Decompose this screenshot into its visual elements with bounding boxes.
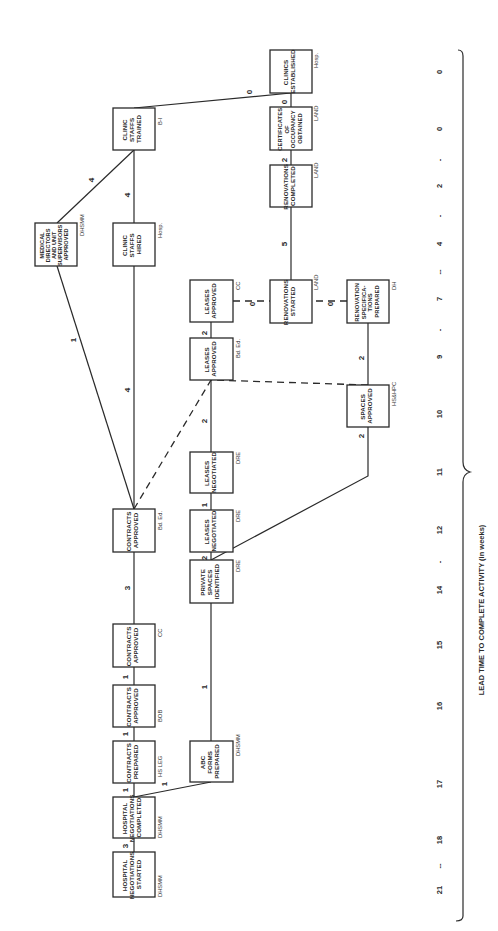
svg-text:CLINIC STAFFS HIRE: CLINIC STAFFS HIRED (121, 231, 142, 257)
agency-label: DHSMM (157, 816, 163, 838)
node-leases-negotiated-1: LEASES NEGOTIATED DRE (190, 510, 241, 552)
node-label-line: HOSPITAL (121, 802, 128, 834)
agency-label: CC (235, 282, 241, 290)
duration-n6-n8: 4 (123, 387, 132, 392)
node-hospital-negotiations-completed: HOSPITAL NEGOTIATIONS COMPLETED DHSMM (113, 793, 163, 843)
axis-tick: 2 (435, 184, 444, 188)
dummy-edges (134, 301, 368, 509)
node-certificates-of-occupancy-obtained: CERTIFICATES OF OCCUPANCY OBTAINED LAND (270, 106, 319, 151)
duration-n5-n6: 3 (123, 585, 132, 590)
axis-tick: 17 (435, 780, 444, 788)
agency-label: DHSMM (235, 734, 241, 756)
duration-n1-n2: 3 (121, 843, 130, 848)
duration-n3-n4: 1 (121, 731, 130, 736)
svg-text:LEASES APPROVED: LEASES APPROVED (203, 341, 217, 377)
node-label-line: CLINIC (121, 234, 128, 256)
edge-n9-n19 (134, 93, 291, 108)
svg-text:CONTRACTS APPROVED: CONTRACTS APPROVED (125, 510, 139, 552)
node-private-spaces-identified: PRIVATE SPACES IDENTIFIED DRE (190, 560, 241, 603)
node-label-line: COMPLETED (135, 797, 142, 837)
duration-n17-n18: 2 (280, 157, 289, 162)
axis-tick: 12 (435, 526, 444, 534)
axis-tick: 16 (435, 702, 444, 710)
node-label-line: FORMS (206, 751, 213, 774)
node-label-line: SPACES (359, 394, 366, 420)
node-label-line: CLINIC (121, 119, 128, 141)
node-label-line: TRAINED (135, 114, 142, 143)
agency-label: HS LEG (157, 755, 163, 777)
lead-time-axis: 21 -- 18 17 16 15 14 - 12 11 10 9 - 7 --… (435, 50, 486, 921)
axis-tick: 14 (435, 585, 444, 594)
duration-n16-n17: 5 (280, 241, 289, 246)
node-label-line: SPACES (206, 570, 213, 596)
node-renovations-started: RENOVATIONS STARTED LAND (270, 275, 319, 326)
node-label-line: PREPARED (213, 744, 220, 779)
duration-n8-n9: 4 (123, 192, 132, 197)
node-label-line: CONTRACTS (125, 743, 132, 783)
svg-text:SPACES APPROVED: SPACES APPROVED (359, 388, 373, 424)
node-label-line: OCCUPANCY (290, 110, 296, 148)
axis-brace (456, 50, 470, 921)
node-clinic-staffs-trained: CLINIC STAFFS TRAINED B-I (113, 108, 163, 150)
node-label-line: PRIVATE (199, 569, 206, 596)
node-label-line: CONTRACTS (125, 627, 132, 667)
agency-label: Bd. Ed. (157, 511, 163, 530)
node-label-line: CERTIFICATES (277, 108, 283, 151)
agency-label: DRE (235, 510, 241, 522)
duration-n4-n5: 1 (121, 674, 130, 679)
node-contracts-approved-bob: CONTRACTS APPROVED BOB (113, 685, 163, 727)
axis-tick: 0 (435, 127, 444, 131)
node-label-line: PREPARED (374, 285, 380, 318)
node-leases-approved-cc: LEASES APPROVED CC (190, 280, 241, 322)
svg-text:CONTRACTS APPROVED: CONTRACTS APPROVED (125, 625, 139, 667)
axis-tick: 15 (435, 641, 444, 649)
node-label-line: LEASES (203, 347, 210, 372)
node-spaces-approved: SPACES APPROVED HS&HPC (347, 382, 397, 427)
node-label-line: APPROVED (132, 688, 139, 724)
node-label-line: LEASES (203, 289, 210, 314)
node-label-line: CONTRACTS (125, 687, 132, 727)
agency-label: DHSMM (79, 214, 85, 236)
duration-n10-n11: 1 (200, 684, 209, 689)
node-hospital-negotiations-started: HOSPITAL NEGOTIATIONS STARTED DHSMM (113, 850, 163, 900)
node-renovations-completed: RENOVATIONS COMPLETED LAND (270, 162, 319, 209)
agency-label: DRE (235, 560, 241, 572)
node-label-line: STARTED (135, 859, 142, 889)
node-label-line: APPROVED (210, 341, 217, 377)
axis-tick: 18 (435, 836, 444, 844)
duration-n6-n7: 1 (69, 337, 78, 342)
node-abc-forms-prepared: ABC FORMS PREPARED DHSMM (190, 734, 241, 782)
svg-text:PRIVATE SPACES IDE: PRIVATE SPACES IDENTIFIED (199, 563, 220, 599)
node-label-line: APPROVED (210, 283, 217, 319)
node-label-line: LEASES (203, 461, 210, 486)
svg-text:CONTRACTS APPROVED: CONTRACTS APPROVED (125, 685, 139, 727)
node-renovation-specifications-prepared: RENOVATION SPECIFICA- TIONS PREPARED DH (347, 280, 397, 323)
node-label-line: HOSPITAL (121, 859, 128, 891)
duration-n9-n19: 0 (245, 89, 254, 94)
duration-n21-n16: 0 (326, 301, 335, 306)
node-label-line: ABC (199, 755, 206, 769)
node-contracts-prepared: CONTRACTS PREPARED HS LEG (113, 741, 163, 783)
axis-tick: 0 (435, 70, 444, 74)
node-clinics-established: CLINICS ESTABLISHED Hosp. (270, 49, 319, 94)
agency-label: Hosp. (313, 52, 319, 68)
node-label-line: APPROVED (132, 627, 139, 663)
node-label-line: NEGOTIATIONS (128, 794, 135, 842)
pert-network-diagram: 3 1 1 1 1 3 1 4 0 4 4 0 1 2 2 1 2 2 0 0 … (0, 0, 498, 931)
node-label-line: LEASES (203, 519, 210, 544)
duration-n14-n15: 2 (200, 330, 209, 335)
node-label-line: OBTAINED (297, 113, 303, 144)
node-label-line: RENOVATIONS (282, 280, 289, 326)
node-label-line: STAFFS (128, 118, 135, 142)
duration-n15-n16: 0 (248, 301, 257, 306)
node-label-line: NEGOTIATIONS (128, 851, 135, 899)
node-label-line: TIONS (367, 293, 373, 311)
svg-text:CLINIC STAFFS TRAI: CLINIC STAFFS TRAINED (121, 114, 142, 143)
node-label-line: OF (284, 125, 290, 134)
node-label-line: PREPARED (132, 744, 139, 779)
node-label-line: STAFFS (128, 233, 135, 257)
axis-title: LEAD TIME TO COMPLETE ACTIVITY (in weeks… (477, 524, 486, 695)
agency-label: HS&HPC (391, 382, 397, 406)
node-label-line: CLINICS (282, 60, 289, 85)
node-label-line: NEGOTIATED (210, 510, 217, 552)
